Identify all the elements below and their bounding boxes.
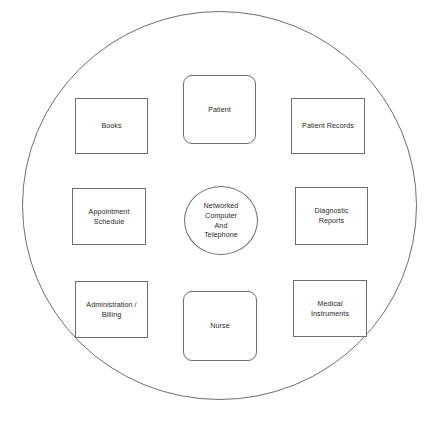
node-patient[interactable]: Patient — [183, 75, 256, 144]
node-patient-records-label: Patient Records — [300, 121, 356, 131]
diagram-canvas: Books Patient Patient Records Appointmen… — [0, 0, 438, 423]
node-networked-computer-and-telephone[interactable]: Networked Computer And Telephone — [184, 186, 258, 255]
node-nurse[interactable]: Nurse — [183, 291, 257, 361]
node-nurse-label: Nurse — [208, 321, 231, 331]
node-patient-records[interactable]: Patient Records — [291, 98, 365, 154]
node-medical-instruments-label: Medical Instruments — [309, 299, 351, 319]
node-patient-label: Patient — [206, 105, 233, 115]
node-medical-instruments[interactable]: Medical Instruments — [293, 280, 367, 337]
node-administration-billing[interactable]: Administration / Billing — [75, 281, 148, 338]
node-appointment-schedule-label: Appointment Schedule — [87, 207, 132, 227]
node-appointment-schedule[interactable]: Appointment Schedule — [72, 188, 146, 245]
node-networked-computer-and-telephone-label: Networked Computer And Telephone — [202, 201, 241, 241]
node-books[interactable]: Books — [75, 98, 148, 154]
node-administration-billing-label: Administration / Billing — [84, 300, 138, 320]
node-diagnostic-reports[interactable]: Diagnostic Reports — [295, 187, 368, 245]
node-diagnostic-reports-label: Diagnostic Reports — [312, 206, 350, 226]
node-books-label: Books — [99, 121, 123, 131]
